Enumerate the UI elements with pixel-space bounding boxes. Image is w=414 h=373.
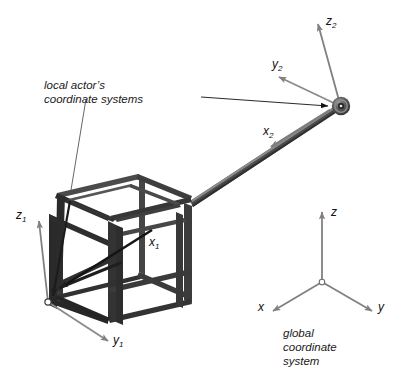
callout-local-line2: coordinate systems xyxy=(44,93,143,107)
axis-label-z1: z1 xyxy=(16,208,26,225)
local-origin-1-marker xyxy=(45,299,51,305)
axis-x2-arrow xyxy=(271,110,330,147)
axis-label-y1: y1 xyxy=(113,333,123,350)
callout-global-line2: coordinate xyxy=(283,341,337,355)
connecting-rod xyxy=(190,106,338,207)
leader-line-to-joint xyxy=(201,97,328,106)
axis-label-y: y xyxy=(378,300,384,314)
axis-label-x2: x2 xyxy=(263,124,273,141)
axis-y2-arrow xyxy=(279,77,338,105)
axis-y-arrow xyxy=(322,282,372,311)
diagram-scene xyxy=(0,0,414,373)
axis-x-arrow xyxy=(273,282,322,311)
leader-line-to-cube xyxy=(71,99,86,190)
callout-local-line1: local actor’s xyxy=(44,79,105,93)
axis-label-x1: x1 xyxy=(149,235,159,252)
global-origin-marker xyxy=(319,279,325,285)
diagram-canvas: local actor’s coordinate systems global … xyxy=(0,0,414,373)
axis-label-z: z xyxy=(331,205,337,219)
axis-label-y2: y2 xyxy=(272,57,282,74)
global-frame-axes xyxy=(273,212,372,311)
callout-global-line1: global xyxy=(283,327,314,341)
callout-global-line3: system xyxy=(283,355,319,369)
axis-label-x: x xyxy=(258,300,264,314)
axis-label-z2: z2 xyxy=(326,14,336,31)
ball-joint xyxy=(332,97,350,115)
axis-z2-arrow xyxy=(318,24,340,104)
axis-z1-arrow xyxy=(39,221,48,302)
